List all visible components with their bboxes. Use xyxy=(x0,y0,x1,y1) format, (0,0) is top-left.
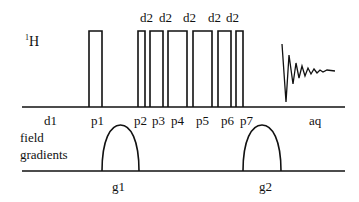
timing-label-p2: p2 xyxy=(134,114,147,127)
fid-signal-icon xyxy=(282,44,335,102)
pulse-sequence-graphics xyxy=(0,0,359,202)
timing-label-p1: p1 xyxy=(91,114,104,127)
gradient-label-g2: g2 xyxy=(259,180,272,193)
rf-pulse-p5 xyxy=(193,31,212,107)
channel-label-field: field xyxy=(20,131,44,144)
timing-label-p4: p4 xyxy=(171,114,184,127)
rf-pulse-p2 xyxy=(138,31,145,107)
channel-label-1h: 1H xyxy=(25,33,39,50)
timing-label-p7: p7 xyxy=(240,114,253,127)
rf-pulse-p3 xyxy=(150,31,163,107)
gradient-label-g1: g1 xyxy=(112,180,125,193)
gradient-pulse-g1 xyxy=(102,125,139,171)
rf-pulses xyxy=(89,31,243,107)
channel-label-gradients: gradients xyxy=(20,148,68,161)
pulse-sequence-diagram: 1H d2 d2 d2 d2 d2 d1 p1 p2 p3 p4 p5 p6 p… xyxy=(0,0,359,202)
timing-label-d1: d1 xyxy=(44,114,57,127)
rf-pulse-p4 xyxy=(168,31,187,107)
timing-label-aq: aq xyxy=(309,114,321,127)
delay-label-d2: d2 xyxy=(208,11,221,24)
delay-label-d2: d2 xyxy=(140,11,153,24)
rf-pulse-p7 xyxy=(236,31,243,107)
delay-label-d2: d2 xyxy=(226,11,239,24)
gradient-pulse-g2 xyxy=(243,125,281,171)
timing-label-p5: p5 xyxy=(196,114,209,127)
timing-label-p6: p6 xyxy=(221,114,234,127)
gradient-pulses xyxy=(102,125,281,171)
delay-label-d2: d2 xyxy=(183,11,196,24)
rf-pulse-p6 xyxy=(218,31,231,107)
rf-pulse-p1 xyxy=(89,31,102,107)
timing-label-p3: p3 xyxy=(152,114,165,127)
delay-label-d2: d2 xyxy=(159,11,172,24)
